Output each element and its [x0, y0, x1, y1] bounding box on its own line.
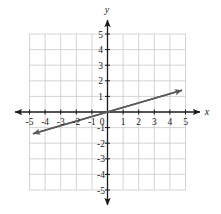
- y-tick-label-1: 1: [98, 92, 103, 102]
- coordinate-plane-svg: -5 -4 -3 -2 -1 0 1 2 3 4 5 5 4 3 2 1 -1 …: [0, 0, 221, 214]
- x-tick-label-neg5: -5: [26, 117, 34, 127]
- x-tick-label-2: 2: [136, 117, 141, 127]
- x-tick-label-neg1: -1: [88, 117, 96, 127]
- x-tick-label-neg4: -4: [41, 117, 49, 127]
- x-tick-label-1: 1: [121, 117, 126, 127]
- x-tick-label-neg3: -3: [57, 117, 65, 127]
- y-tick-label-neg3: -3: [97, 154, 105, 164]
- x-axis-label: x: [204, 106, 210, 117]
- y-tick-label-3: 3: [98, 61, 103, 71]
- y-tick-label-2: 2: [98, 76, 103, 86]
- y-tick-label-neg5: -5: [97, 186, 105, 196]
- x-tick-label-3: 3: [152, 117, 157, 127]
- x-tick-label-5: 5: [183, 117, 188, 127]
- x-tick-label-neg2: -2: [72, 117, 80, 127]
- x-tick-label-4: 4: [168, 117, 173, 127]
- y-tick-label-neg1: -1: [97, 123, 105, 133]
- y-axis-label: y: [104, 4, 110, 15]
- x-tick-labels: -5 -4 -3 -2 -1 0 1 2 3 4 5: [26, 117, 189, 127]
- y-tick-label-neg2: -2: [97, 139, 105, 149]
- y-tick-label-4: 4: [98, 45, 103, 55]
- y-tick-label-5: 5: [98, 30, 103, 40]
- y-tick-label-neg4: -4: [97, 170, 105, 180]
- graph-figure: -5 -4 -3 -2 -1 0 1 2 3 4 5 5 4 3 2 1 -1 …: [0, 0, 221, 214]
